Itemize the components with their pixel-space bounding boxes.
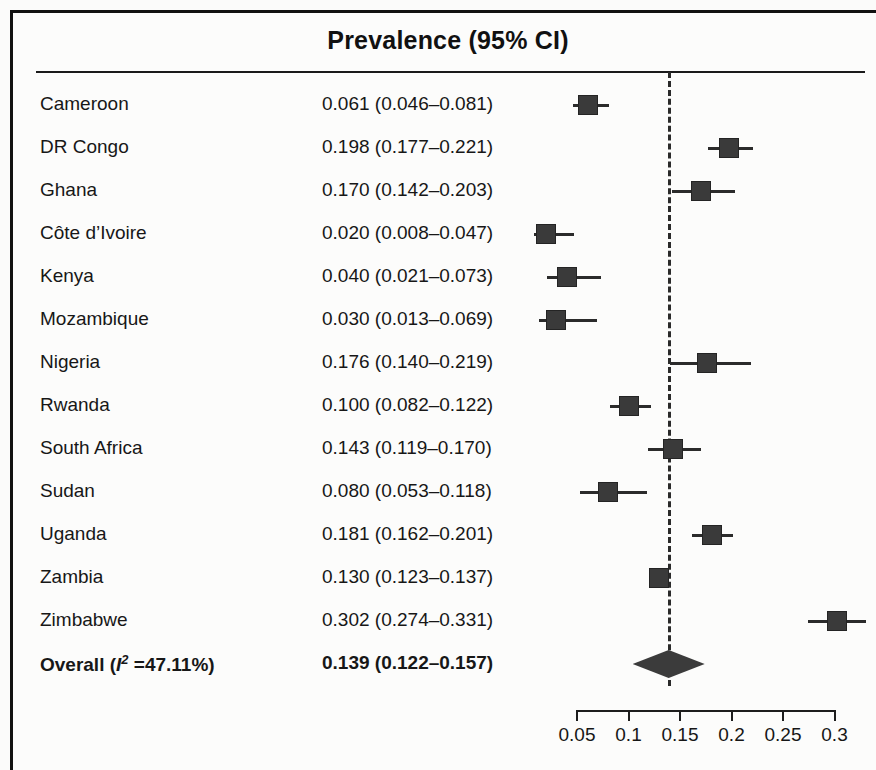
- x-axis-line: [577, 710, 835, 712]
- study-row: Ghana0.170 (0.142–0.203): [0, 179, 876, 209]
- point-estimate-marker: [619, 396, 639, 416]
- overall-effect-size: 0.139 (0.122–0.157): [322, 652, 493, 674]
- overall-label: Overall (I2 =47.11%): [40, 652, 215, 676]
- study-label: Cameroon: [40, 93, 129, 115]
- x-axis-tick-label: 0.1: [615, 724, 641, 746]
- x-axis-tick: [834, 710, 836, 721]
- study-label: Zambia: [40, 566, 103, 588]
- study-row: Uganda0.181 (0.162–0.201): [0, 523, 876, 553]
- effect-size-text: 0.198 (0.177–0.221): [322, 136, 493, 158]
- effect-size-text: 0.030 (0.013–0.069): [322, 308, 493, 330]
- study-label: Mozambique: [40, 308, 149, 330]
- point-estimate-marker: [546, 310, 566, 330]
- study-label: Zimbabwe: [40, 609, 128, 631]
- x-axis-tick-label: 0.05: [559, 724, 596, 746]
- study-row: South Africa0.143 (0.119–0.170): [0, 437, 876, 467]
- x-axis-tick: [782, 710, 784, 721]
- study-row: Rwanda0.100 (0.082–0.122): [0, 394, 876, 424]
- study-row: Mozambique0.030 (0.013–0.069): [0, 308, 876, 338]
- study-label: DR Congo: [40, 136, 129, 158]
- study-row: Côte d’Ivoire0.020 (0.008–0.047): [0, 222, 876, 252]
- point-estimate-marker: [697, 353, 717, 373]
- x-axis-tick: [576, 710, 578, 721]
- study-label: South Africa: [40, 437, 142, 459]
- study-label: Kenya: [40, 265, 94, 287]
- study-label: Ghana: [40, 179, 97, 201]
- x-axis-tick-label: 0.15: [662, 724, 699, 746]
- effect-size-text: 0.302 (0.274–0.331): [322, 609, 493, 631]
- effect-size-text: 0.080 (0.053–0.118): [322, 480, 492, 502]
- effect-size-text: 0.170 (0.142–0.203): [322, 179, 493, 201]
- study-row: Zambia0.130 (0.123–0.137): [0, 566, 876, 596]
- point-estimate-marker: [557, 267, 577, 287]
- summary-row: Overall (I2 =47.11%)0.139 (0.122–0.157): [0, 652, 876, 682]
- study-row: Kenya0.040 (0.021–0.073): [0, 265, 876, 295]
- x-axis-tick-label: 0.2: [718, 724, 744, 746]
- study-label: Nigeria: [40, 351, 100, 373]
- effect-size-text: 0.181 (0.162–0.201): [322, 523, 493, 545]
- study-row: Zimbabwe0.302 (0.274–0.331): [0, 609, 876, 639]
- study-row: Nigeria0.176 (0.140–0.219): [0, 351, 876, 381]
- x-axis-tick: [628, 710, 630, 721]
- point-estimate-marker: [578, 95, 598, 115]
- x-axis-tick: [679, 710, 681, 721]
- study-row: Cameroon0.061 (0.046–0.081): [0, 93, 876, 123]
- effect-size-text: 0.130 (0.123–0.137): [322, 566, 493, 588]
- effect-size-text: 0.100 (0.082–0.122): [322, 394, 493, 416]
- point-estimate-marker: [702, 525, 722, 545]
- study-row: Sudan0.080 (0.053–0.118): [0, 480, 876, 510]
- forest-plot-figure: Prevalence (95% CI) Cameroon0.061 (0.046…: [0, 0, 876, 770]
- point-estimate-marker: [827, 611, 847, 631]
- effect-size-text: 0.040 (0.021–0.073): [322, 265, 493, 287]
- study-label: Rwanda: [40, 394, 110, 416]
- study-row: DR Congo0.198 (0.177–0.221): [0, 136, 876, 166]
- effect-size-text: 0.176 (0.140–0.219): [322, 351, 493, 373]
- effect-size-text: 0.143 (0.119–0.170): [322, 437, 492, 459]
- x-axis-tick-label: 0.25: [765, 724, 802, 746]
- effect-size-text: 0.061 (0.046–0.081): [322, 93, 493, 115]
- point-estimate-marker: [691, 181, 711, 201]
- study-label: Uganda: [40, 523, 107, 545]
- plot-area: Cameroon0.061 (0.046–0.081)DR Congo0.198…: [0, 0, 876, 770]
- study-label: Côte d’Ivoire: [40, 222, 147, 244]
- point-estimate-marker: [663, 439, 683, 459]
- point-estimate-marker: [719, 138, 739, 158]
- i-squared-symbol: I2: [116, 654, 128, 675]
- study-label: Sudan: [40, 480, 95, 502]
- x-axis-tick: [731, 710, 733, 721]
- x-axis-tick-label: 0.3: [821, 724, 847, 746]
- effect-size-text: 0.020 (0.008–0.047): [322, 222, 493, 244]
- point-estimate-marker: [536, 224, 556, 244]
- point-estimate-marker: [649, 568, 669, 588]
- point-estimate-marker: [598, 482, 618, 502]
